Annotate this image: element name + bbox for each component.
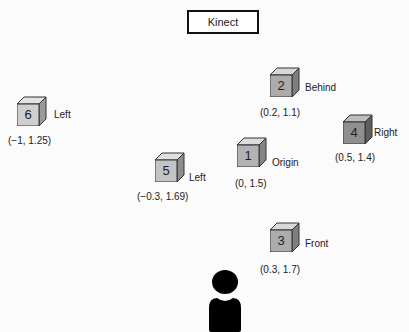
cube-3-label: Front: [305, 238, 328, 249]
cube-number: 3: [270, 230, 292, 252]
user-icon: [205, 268, 245, 332]
cube-4: 4: [343, 114, 373, 144]
cube-5-label: Left: [189, 172, 206, 183]
cube-1-coord: (0, 1.5): [235, 178, 267, 189]
cube-6-coord: (−1, 1.25): [8, 135, 51, 146]
cube-5: 5: [155, 152, 185, 182]
cube-2-coord: (0.2, 1.1): [260, 107, 300, 118]
cube-6: 6: [17, 96, 47, 126]
cube-3-coord: (0.3, 1.7): [260, 264, 300, 275]
cube-number: 1: [237, 145, 259, 167]
person-figure: [205, 268, 245, 332]
cube-number: 6: [17, 104, 39, 126]
cube-2-label: Behind: [305, 82, 336, 93]
cube-4-label: Right: [374, 127, 397, 138]
cube-6-label: Left: [54, 109, 71, 120]
cube-1: 1: [237, 137, 267, 167]
cube-5-coord: (−0.3, 1.69): [137, 191, 188, 202]
cube-number: 5: [155, 160, 177, 182]
cube-2: 2: [270, 67, 300, 97]
cube-number: 2: [270, 75, 292, 97]
cube-3: 3: [270, 222, 300, 252]
kinect-sensor-box: Kinect: [187, 10, 259, 34]
cube-number: 4: [343, 122, 365, 144]
cube-4-coord: (0.5, 1.4): [335, 152, 375, 163]
cube-1-label: Origin: [272, 157, 299, 168]
